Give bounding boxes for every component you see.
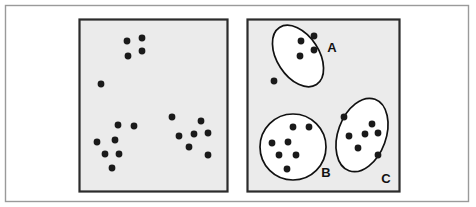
data-point [191,131,198,138]
data-point [176,133,183,140]
cluster-b-point [276,152,283,159]
cluster-c-point [362,131,369,138]
cluster-a-label: A [327,40,337,55]
data-point [125,53,132,60]
data-point [116,151,123,158]
data-point [112,137,119,144]
cluster-a-point [297,53,304,60]
cluster-b-point [284,166,291,173]
data-point [139,35,146,42]
cluster-b-point [293,152,300,159]
cluster-a-point [271,78,278,85]
cluster-c-point [369,121,376,128]
data-point [94,139,101,146]
data-point [124,38,131,45]
clustered-panel: ABC [248,16,400,191]
data-point [102,151,109,158]
cluster-b-label: B [321,165,330,180]
cluster-c-point [375,130,382,137]
cluster-b-point [290,124,297,131]
cluster-b-point [285,139,292,146]
cluster-c-label: C [381,171,391,186]
data-point [169,114,176,121]
cluster-a-point [298,38,305,45]
data-point [186,144,193,151]
data-point [109,165,116,172]
cluster-c-point [346,133,353,140]
data-point [139,48,146,55]
unclustered-panel-frame [80,20,228,192]
figure-root: ABC [0,0,476,207]
figure-background [0,0,476,207]
data-point [198,118,205,125]
cluster-c-point [341,114,348,121]
cluster-a-point [311,33,318,40]
clustering-diagram: ABC [0,0,476,207]
data-point [131,123,138,130]
unclustered-panel [80,20,228,192]
data-point [98,81,105,88]
data-point [205,152,212,159]
cluster-b-point [306,124,313,131]
data-point [205,130,212,137]
cluster-c-point [355,145,362,152]
cluster-a-point [311,47,318,54]
cluster-c-point [375,152,382,159]
data-point [115,122,122,129]
cluster-b-point [269,140,276,147]
